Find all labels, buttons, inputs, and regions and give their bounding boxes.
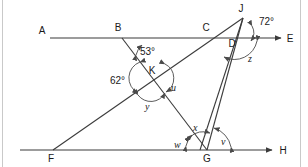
point-label-F: F	[48, 153, 54, 164]
point-label-A: A	[39, 25, 46, 36]
angle-label-v-at-G: v	[221, 136, 226, 147]
arc-y-at-K	[138, 93, 165, 101]
point-label-E: E	[287, 33, 294, 44]
point-label-K: K	[149, 65, 156, 76]
geometry-svg: A B C D E J K F G H 53° 62° u y 72° z x …	[0, 0, 308, 167]
angle-label-53-at-B: 53°	[140, 46, 155, 57]
point-label-D: D	[228, 38, 235, 49]
arc-w-at-G	[186, 135, 192, 146]
arc-62-at-K	[129, 62, 140, 93]
angle-label-62-at-K: 62°	[110, 75, 125, 86]
point-label-G: G	[203, 153, 211, 164]
arc-72-at-J	[251, 26, 254, 41]
angle-label-72-at-J: 72°	[259, 16, 274, 27]
geometry-figure: A B C D E J K F G H 53° 62° u y 72° z x …	[0, 0, 308, 167]
angle-label-u-at-K: u	[171, 82, 176, 93]
point-label-H: H	[279, 145, 286, 156]
point-label-J: J	[239, 3, 244, 14]
point-label-C: C	[202, 22, 209, 33]
angle-label-w-at-G: w	[174, 139, 181, 150]
angle-label-z-at-D: z	[247, 53, 252, 64]
angle-label-x-at-G: x	[192, 122, 198, 133]
angle-label-y-at-K: y	[144, 101, 150, 112]
point-label-B: B	[115, 22, 122, 33]
